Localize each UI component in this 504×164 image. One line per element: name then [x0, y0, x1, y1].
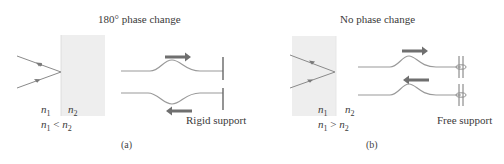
panel-b-n2-label: n2	[345, 103, 355, 118]
panel-b-caption: (b)	[366, 139, 378, 150]
panel-a-n1-label: n1	[41, 103, 51, 118]
panel-b-string	[358, 47, 466, 107]
panel-a-optics	[17, 35, 105, 116]
direction-arrowhead-right-b	[422, 47, 428, 56]
reflected-pulse-b	[358, 84, 461, 95]
reflected-pulse-a	[121, 93, 223, 104]
panel-b-relation: n1 > n2	[318, 118, 349, 133]
panel-b-optics	[290, 36, 336, 116]
direction-arrow-left-b	[409, 79, 429, 82]
direction-arrow-left-a	[172, 110, 192, 113]
diagram-canvas	[0, 0, 504, 164]
rigid-support-label: Rigid support	[186, 114, 246, 126]
direction-arrow-right-a	[165, 56, 185, 59]
panel-a-relation: n1 < n2	[41, 118, 72, 133]
direction-arrowhead-left-a	[166, 107, 172, 116]
panel-a-string	[121, 53, 223, 116]
panel-a-caption: (a)	[121, 139, 132, 150]
panel-b-title: No phase change	[340, 13, 415, 25]
direction-arrowhead-right-a	[185, 53, 191, 62]
panel-b-n1-label: n1	[318, 103, 328, 118]
incident-pulse-a	[121, 60, 223, 71]
free-support-label: Free support	[437, 114, 492, 126]
panel-a-title: 180° phase change	[98, 13, 181, 25]
direction-arrowhead-left-b	[403, 76, 409, 85]
panel-a-n2-label: n2	[68, 103, 78, 118]
medium-n1-slab-b	[292, 36, 336, 116]
incident-pulse-b	[358, 56, 461, 67]
direction-arrow-right-b	[402, 50, 422, 53]
